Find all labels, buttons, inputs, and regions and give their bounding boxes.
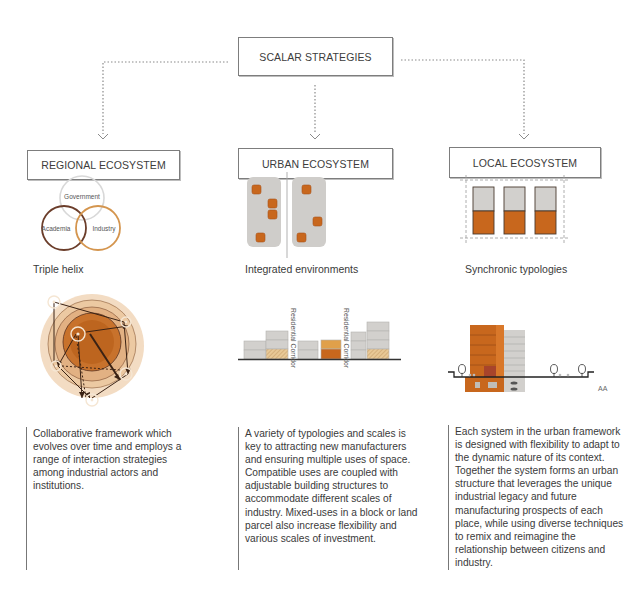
synchronic-typologies-diagram xyxy=(460,175,570,255)
urban-description: A variety of typologies and scales is ke… xyxy=(238,427,423,570)
government-label: Government xyxy=(64,193,100,200)
local-ecosystem-box: LOCAL ECOSYSTEM xyxy=(449,147,601,178)
residential-corridor-label-1: Residential Corridor xyxy=(290,308,297,369)
regional-interaction-diagram xyxy=(34,290,152,408)
synchronic-typologies-caption: Synchronic typologies xyxy=(465,263,567,275)
triple-helix-venn-diagram: Government Academia Industry xyxy=(30,168,140,260)
integrated-environments-caption: Integrated environments xyxy=(245,263,358,275)
scalar-strategies-box: SCALAR STRATEGIES xyxy=(238,37,393,76)
arrowhead-regional-icon xyxy=(98,134,108,139)
local-description: Each system in the urban framework is de… xyxy=(448,425,628,570)
academia-label: Academia xyxy=(42,225,71,232)
regional-description-text: Collaborative framework which evolves ov… xyxy=(33,428,181,491)
connector-local xyxy=(401,60,524,134)
integrated-environments-plan xyxy=(245,170,335,260)
residential-corridor-label-2: Residential Corridor xyxy=(343,308,350,369)
urban-description-text: A variety of typologies and scales is ke… xyxy=(245,428,418,544)
local-ecosystem-heading: LOCAL ECOSYSTEM xyxy=(473,157,577,169)
arrowhead-urban-icon xyxy=(310,134,320,139)
section-aa-label: AA xyxy=(598,385,608,392)
urban-street-section: Residential Corridor Residential Corrido… xyxy=(236,300,406,380)
regional-description: Collaborative framework which evolves ov… xyxy=(26,427,201,570)
industry-label: Industry xyxy=(92,225,116,233)
local-description-text: Each system in the urban framework is de… xyxy=(455,426,623,568)
connector-regional xyxy=(103,62,228,134)
urban-ecosystem-heading: URBAN ECOSYSTEM xyxy=(262,158,369,170)
arrowhead-local-icon xyxy=(519,134,529,139)
local-section-aa: AA xyxy=(448,320,610,395)
triple-helix-caption: Triple helix xyxy=(33,263,83,275)
scalar-strategies-label: SCALAR STRATEGIES xyxy=(259,51,371,63)
